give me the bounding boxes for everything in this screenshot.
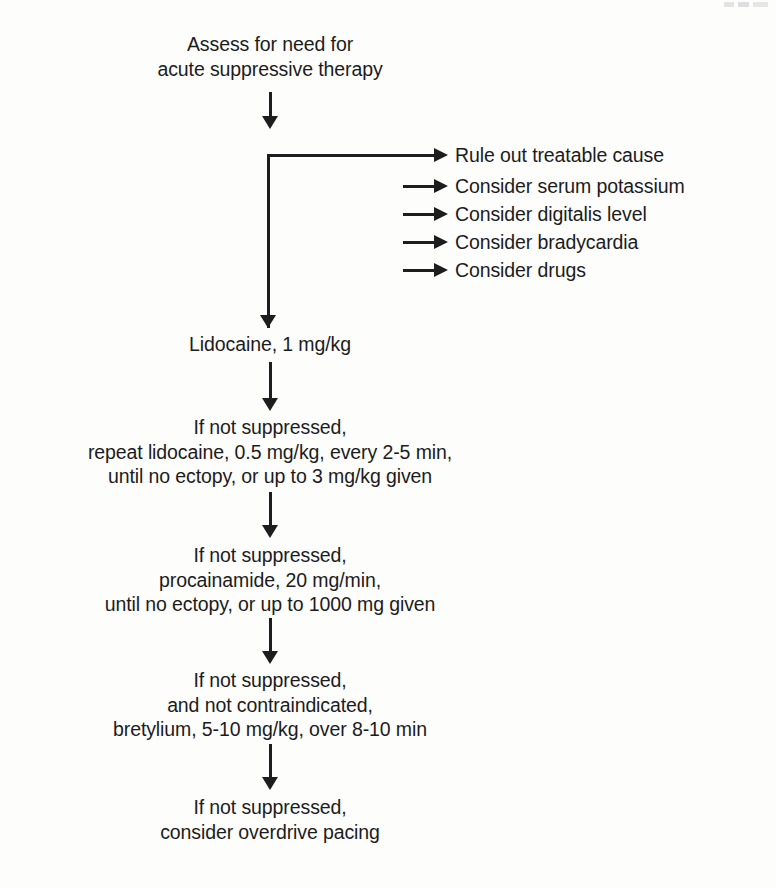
node-lidocaine-repeat: If not suppressed, repeat lidocaine, 0.5…: [0, 415, 540, 489]
node-procainamide-line-2: procainamide, 20 mg/min,: [0, 568, 540, 593]
node-assess-line-2: acute suppressive therapy: [0, 57, 540, 82]
branch-label-consider-bradycardia: Consider bradycardia: [455, 231, 638, 253]
arrow-procainamide-to-bretylium: [262, 618, 279, 664]
node-bretylium-line-3: bretylium, 5-10 mg/kg, over 8-10 min: [0, 717, 540, 742]
node-overdrive-pacing: If not suppressed, consider overdrive pa…: [0, 795, 540, 844]
arrow-branch-to-lidocaine: [260, 315, 277, 329]
branch-label-consider-serum-potassium: Consider serum potassium: [455, 175, 685, 197]
branch-trunk-line: [267, 154, 270, 328]
node-lidocaine-repeat-line-3: until no ectopy, or up to 3 mg/kg given: [0, 464, 540, 489]
branch-arrow-2: [403, 179, 448, 194]
node-overdrive-pacing-line-2: consider overdrive pacing: [0, 820, 540, 845]
node-lidocaine-repeat-line-2: repeat lidocaine, 0.5 mg/kg, every 2-5 m…: [0, 440, 540, 465]
arrow-assess-to-branch: [262, 92, 279, 129]
node-assess: Assess for need for acute suppressive th…: [0, 32, 540, 81]
node-bretylium-line-2: and not contraindicated,: [0, 693, 540, 718]
arrow-bretylium-to-pacing: [262, 744, 279, 790]
branch-label-consider-drugs: Consider drugs: [455, 259, 586, 281]
scan-artifact: [724, 2, 768, 7]
arrow-repeat-to-procainamide: [262, 492, 279, 538]
branch-arrow-3: [403, 207, 448, 222]
branch-arrow-5: [403, 263, 448, 278]
node-bretylium-line-1: If not suppressed,: [0, 668, 540, 693]
node-procainamide-line-1: If not suppressed,: [0, 543, 540, 568]
branch-arrow-4: [403, 235, 448, 250]
node-overdrive-pacing-line-1: If not suppressed,: [0, 795, 540, 820]
node-lidocaine-initial: Lidocaine, 1 mg/kg: [0, 332, 540, 357]
node-procainamide: If not suppressed, procainamide, 20 mg/m…: [0, 543, 540, 617]
flowchart-canvas: Assess for need for acute suppressive th…: [0, 0, 776, 888]
branch-arrow-1: [267, 148, 448, 163]
node-bretylium: If not suppressed, and not contraindicat…: [0, 668, 540, 742]
branch-label-rule-out-treatable-cause: Rule out treatable cause: [455, 144, 664, 166]
node-lidocaine-repeat-line-1: If not suppressed,: [0, 415, 540, 440]
node-lidocaine-initial-line-1: Lidocaine, 1 mg/kg: [0, 332, 540, 357]
branch-label-consider-digitalis-level: Consider digitalis level: [455, 203, 647, 225]
node-procainamide-line-3: until no ectopy, or up to 1000 mg given: [0, 592, 540, 617]
arrow-lidocaine-to-repeat: [262, 362, 279, 411]
node-assess-line-1: Assess for need for: [0, 32, 540, 57]
